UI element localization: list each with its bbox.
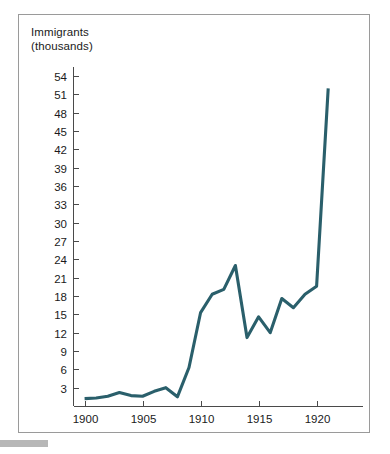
y-tick-label: 24 <box>54 254 67 266</box>
x-tick-label: 1905 <box>131 413 157 425</box>
y-tick-label: 48 <box>54 108 67 120</box>
y-tick-label: 54 <box>54 71 67 83</box>
y-tick-label: 9 <box>61 346 67 358</box>
x-tick-label: 1910 <box>189 413 215 425</box>
y-tick-label: 27 <box>54 236 67 248</box>
x-tick-label: 1900 <box>73 413 99 425</box>
chart-frame: Immigrants (thousands) 36912151821242730… <box>18 14 370 433</box>
footer-gray-bar <box>0 440 48 447</box>
y-tick-label: 12 <box>54 328 67 340</box>
immigrants-line-chart: 3691215182124273033363942454851541900190… <box>19 15 371 434</box>
x-tick-label: 1920 <box>305 413 331 425</box>
y-tick-label: 36 <box>54 181 67 193</box>
y-tick-label: 51 <box>54 89 67 101</box>
data-series-line <box>85 88 329 398</box>
y-tick-label: 45 <box>54 126 67 138</box>
y-tick-label: 15 <box>54 309 67 321</box>
y-tick-label: 33 <box>54 199 67 211</box>
x-tick-label: 1915 <box>247 413 273 425</box>
y-tick-label: 39 <box>54 163 67 175</box>
y-tick-label: 21 <box>54 273 67 285</box>
y-tick-label: 42 <box>54 144 67 156</box>
y-tick-label: 18 <box>54 291 67 303</box>
y-tick-label: 3 <box>61 383 67 395</box>
y-tick-label: 30 <box>54 218 67 230</box>
plot-area: 3691215182124273033363942454851541900190… <box>19 15 371 434</box>
y-tick-label: 6 <box>61 364 67 376</box>
